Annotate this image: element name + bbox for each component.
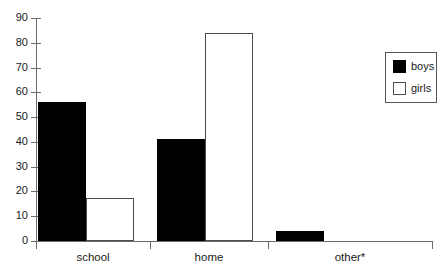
y-axis-tick-label-wrap: 80 bbox=[0, 37, 28, 48]
y-axis-tick-label-wrap: 20 bbox=[0, 185, 28, 196]
y-axis-tick-label-wrap: 10 bbox=[0, 210, 28, 221]
legend-item-boys: boys bbox=[393, 60, 434, 73]
y-axis-tick-label-wrap: 40 bbox=[0, 136, 28, 147]
chart-legend: boys girls bbox=[385, 52, 437, 103]
bar-school-girls bbox=[86, 198, 134, 241]
x-axis-line bbox=[36, 241, 432, 242]
y-axis-tick-label: 90 bbox=[2, 12, 28, 23]
legend-label-girls: girls bbox=[411, 83, 431, 94]
x-axis-label-school: school bbox=[43, 251, 143, 264]
legend-label-boys: boys bbox=[411, 61, 434, 72]
y-axis-tick-label: 0 bbox=[2, 235, 28, 246]
x-axis-separator-tick bbox=[432, 241, 433, 249]
y-axis-tick-label-wrap: 0 bbox=[0, 235, 28, 246]
y-axis-tick-label: 10 bbox=[2, 210, 28, 221]
legend-swatch-girls-icon bbox=[393, 82, 406, 95]
legend-item-girls: girls bbox=[393, 82, 431, 95]
y-axis-tick bbox=[31, 68, 41, 69]
y-axis-tick-label: 20 bbox=[2, 185, 28, 196]
y-axis-tick bbox=[31, 18, 41, 19]
x-axis-separator-tick bbox=[36, 241, 37, 249]
x-axis-separator-tick bbox=[150, 241, 151, 249]
y-axis-line bbox=[36, 18, 37, 241]
x-axis-label-other: other* bbox=[300, 251, 400, 264]
y-axis-tick-label-wrap: 90 bbox=[0, 12, 28, 23]
y-axis-tick-label-wrap: 50 bbox=[0, 111, 28, 122]
bar-school-boys bbox=[38, 102, 86, 241]
bar-home-boys bbox=[157, 139, 205, 241]
x-axis-separator-tick bbox=[268, 241, 269, 249]
y-axis-tick bbox=[31, 43, 41, 44]
y-axis-tick-label: 50 bbox=[2, 111, 28, 122]
y-axis-tick-label: 80 bbox=[2, 37, 28, 48]
y-axis-tick-label-wrap: 30 bbox=[0, 161, 28, 172]
plot-area: 0102030405060708090 schoolhomeother* bbox=[0, 0, 444, 270]
x-axis-label-home: home bbox=[159, 251, 259, 264]
bar-chart-figure: 0102030405060708090 schoolhomeother* boy… bbox=[0, 0, 444, 270]
y-axis-tick-label-wrap: 60 bbox=[0, 86, 28, 97]
bar-home-girls bbox=[205, 33, 253, 241]
y-axis-tick-label: 40 bbox=[2, 136, 28, 147]
y-axis-tick-label-wrap: 70 bbox=[0, 62, 28, 73]
bar-other-boys bbox=[276, 231, 324, 241]
y-axis-tick-label: 30 bbox=[2, 161, 28, 172]
y-axis-tick-label: 60 bbox=[2, 86, 28, 97]
y-axis-tick-label: 70 bbox=[2, 62, 28, 73]
legend-swatch-boys-icon bbox=[393, 60, 406, 73]
y-axis-tick bbox=[31, 92, 41, 93]
